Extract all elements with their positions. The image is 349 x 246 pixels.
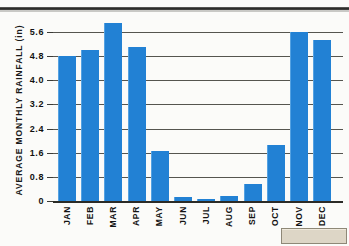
axis-baseline	[53, 201, 343, 203]
bar-group: FEB	[81, 14, 98, 201]
bar-group: AUG	[220, 14, 237, 201]
x-axis-tick-label: MAY	[154, 206, 164, 226]
x-axis-tick-label: OCT	[270, 206, 280, 226]
x-axis-tick-label: AUG	[224, 206, 234, 227]
y-axis-tick-label: 1.6	[30, 148, 44, 158]
x-axis-tick-label: JUN	[178, 206, 188, 225]
bar-series: JANFEBMARAPRMAYJUNJULAUGSEPOCTNOVDEC	[53, 14, 343, 201]
bar	[290, 32, 308, 201]
x-axis-tick-label: NOV	[294, 206, 304, 227]
y-axis-title: AVERAGE MONTHLY RAINFALL (in)	[14, 15, 24, 205]
bar	[197, 199, 215, 201]
bar	[244, 184, 262, 201]
x-axis-tick-label: DEC	[317, 206, 327, 226]
y-axis-tick-label: 4.0	[30, 75, 44, 85]
plot-area: 5.64.84.03.22.41.60.80 JANFEBMARAPRMAYJU…	[53, 14, 343, 201]
x-axis-tick-label: JAN	[62, 206, 72, 225]
bar-group: JUL	[197, 14, 214, 201]
bar-group: OCT	[267, 14, 284, 201]
bar-group: MAR	[104, 14, 121, 201]
bar-group: NOV	[290, 14, 307, 201]
y-axis-tick	[47, 201, 53, 202]
x-axis-tick-label: JUL	[201, 206, 211, 224]
x-axis-tick-label: SEP	[247, 206, 257, 225]
scan-artifact	[281, 228, 347, 244]
y-axis-tick-label: 2.4	[30, 124, 44, 134]
y-axis-tick-label: 3.2	[30, 99, 44, 109]
bar-group: MAY	[151, 14, 168, 201]
y-axis-tick-label: 5.6	[30, 27, 44, 37]
x-axis-tick-label: APR	[131, 206, 141, 226]
y-axis-tick-label: 0.8	[30, 172, 44, 182]
bar	[151, 151, 169, 201]
y-axis-tick-label: 0	[38, 196, 44, 206]
y-axis-tick-label: 4.8	[30, 51, 44, 61]
bar	[104, 23, 122, 201]
bar	[174, 197, 192, 201]
bar-group: JAN	[58, 14, 75, 201]
bar-group: SEP	[244, 14, 261, 201]
page-top-rule-shadow	[0, 10, 349, 12]
bar-group: DEC	[313, 14, 330, 201]
x-axis-tick-label: MAR	[108, 206, 118, 227]
bar	[267, 145, 285, 201]
bar	[313, 40, 331, 201]
bar-group: APR	[128, 14, 145, 201]
bar	[128, 47, 146, 201]
bar-group: JUN	[174, 14, 191, 201]
x-axis-tick-label: FEB	[85, 206, 95, 225]
bar	[220, 196, 238, 201]
chart-page: AVERAGE MONTHLY RAINFALL (in) 5.64.84.03…	[0, 0, 349, 246]
bar	[58, 56, 76, 201]
bar	[81, 50, 99, 201]
